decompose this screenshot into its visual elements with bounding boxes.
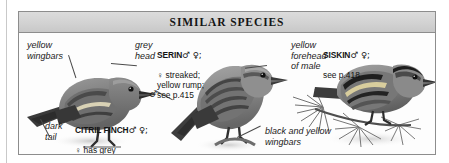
page-gutter-rule (6, 0, 7, 163)
annotation-yellow-forehead: yellow forehead of male (291, 40, 327, 72)
species-detail-siskin: see p.418 (323, 70, 360, 80)
species-name-serin: SERIN (157, 50, 182, 60)
species-symbols-siskin: ♂ ♀; (350, 50, 369, 60)
caption-siskin: SISKIN♂ ♀; see p.418 (323, 40, 370, 80)
annotation-yellow-wingbars: yellow wingbars (27, 40, 63, 61)
annotation-grey-head: grey head (135, 40, 155, 61)
species-detail-serin: ♀ streaked; yellow rump; see p.415 (157, 70, 204, 100)
species-name-citril-finch: CITRIL FINCH (75, 125, 129, 135)
male-symbol-citril-finch: ♂ (149, 89, 157, 99)
species-symbols-citril-finch: ♂ ♀; (129, 125, 148, 135)
caption-serin: SERIN♂ ♀; ♀ streaked; yellow rump; see p… (157, 40, 204, 100)
panel-body: yellow wingbars grey head dark tail yell… (19, 33, 435, 154)
species-symbols-serin: ♂ ♀; (182, 50, 201, 60)
annotation-black-and-yellow-wingbars: black and yellow wingbars (265, 126, 331, 147)
species-detail-citril-finch: ♀ has grey breast; see p.416 (75, 145, 140, 154)
caption-citril-finch: CITRIL FINCH♂ ♀; ♀ has grey breast; see … (75, 115, 148, 154)
species-name-siskin: SISKIN (323, 50, 350, 60)
panel-header: SIMILAR SPECIES (19, 12, 435, 33)
annotation-dark-tail: dark tail (45, 121, 63, 142)
similar-species-panel: SIMILAR SPECIES (18, 11, 436, 155)
page-title: SIMILAR SPECIES (170, 16, 285, 28)
